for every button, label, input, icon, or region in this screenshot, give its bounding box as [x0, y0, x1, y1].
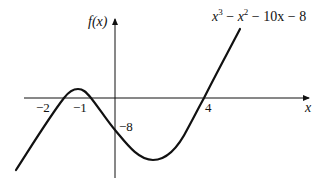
chart: f(x) x −2 −1 4 −8 x3 − x2 − 10x − 8 — [0, 0, 326, 186]
y-axis-label: f(x) — [88, 14, 108, 30]
x-axis-label: x — [304, 100, 312, 115]
x-tick-label-neg2: −2 — [36, 100, 50, 115]
x-tick-label-4: 4 — [205, 100, 212, 115]
x-tick-label-neg1: −1 — [73, 100, 87, 115]
function-label: x3 − x2 − 10x − 8 — [211, 7, 306, 24]
y-tick-label-neg8: −8 — [119, 119, 133, 134]
